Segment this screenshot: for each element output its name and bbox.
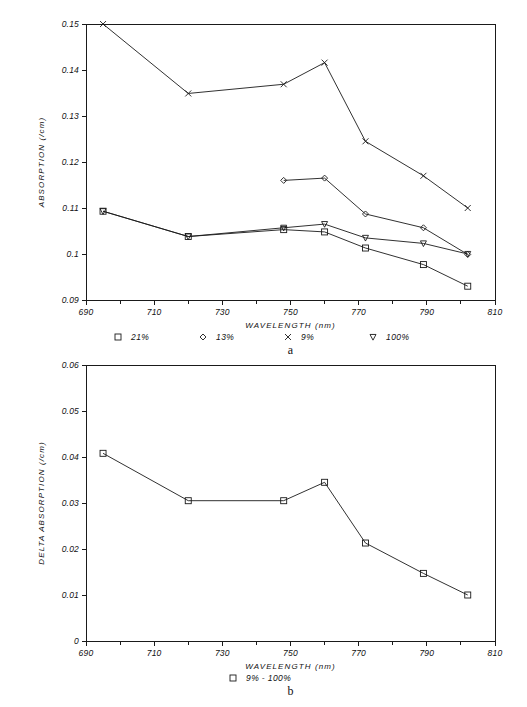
y-tick-label: 0.14 [62,65,79,75]
x-tick-label: 810 [488,648,503,658]
y-tick-label: 0.09 [62,295,79,305]
marker-square [465,283,471,289]
legend: 21%13%9%100% [115,332,409,342]
panel-b: 00.010.020.030.040.050.06690710730750770… [37,360,502,698]
marker-square [465,592,471,598]
figure-container: 0.090.10.110.120.130.140.156907107307507… [0,0,527,707]
legend-label: 21% [130,332,149,342]
y-tick-label: 0.05 [62,406,79,416]
legend-label: 9% [301,332,314,342]
series-markers-9-100- [100,450,471,598]
panel-label: b [288,684,294,698]
y-tick-label: 0.11 [62,203,79,213]
marker-diamond [200,334,206,340]
series-line-13- [284,178,468,254]
y-tick-label: 0.01 [62,590,79,600]
plot-frame [86,365,495,641]
y-tick-label: 0.02 [62,544,79,554]
series-markers-9- [100,21,471,211]
x-tick-label: 810 [488,307,503,317]
x-tick-label: 730 [215,307,230,317]
marker-square [115,334,121,340]
y-tick-label: 0.06 [62,360,79,370]
x-tick-label: 770 [351,648,366,658]
series-markers-21- [100,208,471,289]
y-tick-label: 0.12 [62,157,79,167]
legend: 9% - 100% [230,673,291,683]
panel-label: a [288,343,294,357]
series-line-9-100- [103,453,468,595]
x-axis-title: WAVELENGTH (nm) [245,662,336,671]
absorption-figure: 0.090.10.110.120.130.140.156907107307507… [0,0,527,707]
legend-label: 9% - 100% [246,673,291,683]
x-tick-label: 790 [419,307,434,317]
y-tick-label: 0 [74,636,79,646]
y-axis-title: ABSORPTION (/cm) [37,117,46,209]
y-tick-label: 0.15 [62,19,79,29]
series-line-21- [103,211,468,286]
x-tick-label: 750 [283,307,298,317]
y-tick-label: 0.03 [62,498,79,508]
y-tick-label: 0.1 [67,249,79,259]
x-axis-title: WAVELENGTH (nm) [245,321,336,330]
legend-label: 13% [216,332,234,342]
x-tick-label: 710 [147,307,162,317]
x-tick-label: 770 [351,307,366,317]
x-tick-label: 710 [147,648,162,658]
plot-frame [86,24,495,300]
y-tick-label: 0.13 [62,111,79,121]
panel-a: 0.090.10.110.120.130.140.156907107307507… [37,19,502,357]
y-axis-title: DELTA ABSORPTION (/cm) [37,441,46,564]
x-tick-label: 750 [283,648,298,658]
legend-label: 100% [386,332,409,342]
marker-square [230,675,236,681]
x-tick-label: 690 [79,307,94,317]
marker-triangle-down [370,334,376,340]
x-tick-label: 790 [419,648,434,658]
x-tick-label: 690 [79,648,94,658]
x-tick-label: 730 [215,648,230,658]
y-tick-label: 0.04 [62,452,79,462]
